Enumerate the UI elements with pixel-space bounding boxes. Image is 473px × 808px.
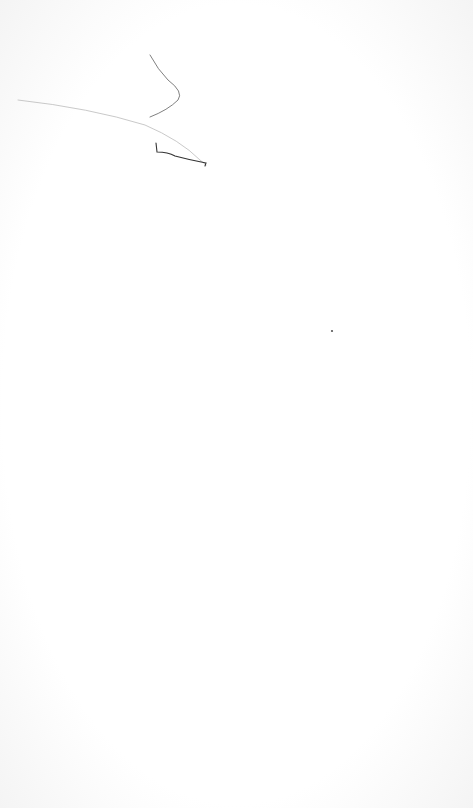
paper-sheet — [0, 0, 473, 808]
curved-stroke — [150, 55, 180, 117]
hook-stroke — [156, 143, 206, 166]
long-diagonal-stroke — [18, 100, 206, 165]
ink-dot — [331, 330, 333, 332]
scribble-drawing — [0, 0, 473, 808]
